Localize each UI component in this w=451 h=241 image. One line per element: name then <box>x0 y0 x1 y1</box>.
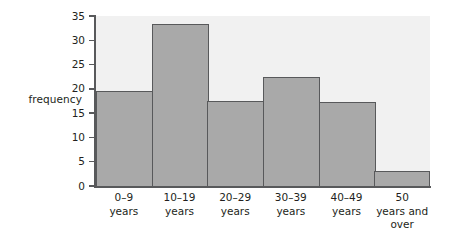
x-axis-category-labels: 0–9years10–19years20–29years30–39years40… <box>96 191 430 239</box>
y-tick-label: 15 <box>61 108 85 118</box>
y-tick-mark <box>89 185 94 186</box>
y-tick-mark <box>89 88 94 89</box>
y-tick-mark <box>89 137 94 138</box>
x-category-label: 20–29years <box>207 191 263 218</box>
x-category-label: 50years andover <box>374 191 430 232</box>
histogram-bar <box>374 171 430 186</box>
x-category-label-line: years <box>152 205 208 219</box>
y-tick-label: 20 <box>61 83 85 93</box>
histogram-bar <box>263 77 320 186</box>
histogram-bar <box>152 24 209 186</box>
y-tick-mark <box>89 64 94 65</box>
y-tick-mark <box>89 40 94 41</box>
x-category-label: 10–19years <box>152 191 208 218</box>
y-tick-label: 35 <box>61 11 85 21</box>
y-tick-label: 0 <box>61 181 85 191</box>
x-category-label-line: 10–19 <box>152 191 208 205</box>
x-category-label-line: years <box>319 205 375 219</box>
x-category-label-line: 50 <box>374 191 430 205</box>
y-tick-mark <box>89 161 94 162</box>
x-category-label-line: years <box>96 205 152 219</box>
x-category-label: 40–49years <box>319 191 375 218</box>
x-category-label: 0–9years <box>96 191 152 218</box>
x-category-label: 30–39years <box>263 191 319 218</box>
x-category-label-line: 20–29 <box>207 191 263 205</box>
y-tick-label: 30 <box>61 35 85 45</box>
x-axis-line <box>94 186 431 188</box>
bars-layer <box>96 16 430 186</box>
y-tick-label: 5 <box>61 156 85 166</box>
x-category-label-line: years and <box>374 205 430 219</box>
x-category-label-line: years <box>263 205 319 219</box>
y-tick-mark <box>89 15 94 16</box>
histogram-chart: frequency 05101520253035 0–9years10–19ye… <box>0 0 451 241</box>
y-tick-mark <box>89 112 94 113</box>
y-tick-label: 10 <box>61 132 85 142</box>
x-category-label-line: 40–49 <box>319 191 375 205</box>
x-category-label-line: over <box>374 218 430 232</box>
x-category-label-line: 0–9 <box>96 191 152 205</box>
x-category-label-line: 30–39 <box>263 191 319 205</box>
histogram-bar <box>207 101 264 186</box>
y-tick-label: 25 <box>61 59 85 69</box>
x-category-label-line: years <box>207 205 263 219</box>
histogram-bar <box>96 91 153 186</box>
y-axis-title: frequency <box>18 93 82 105</box>
histogram-bar <box>319 102 376 187</box>
